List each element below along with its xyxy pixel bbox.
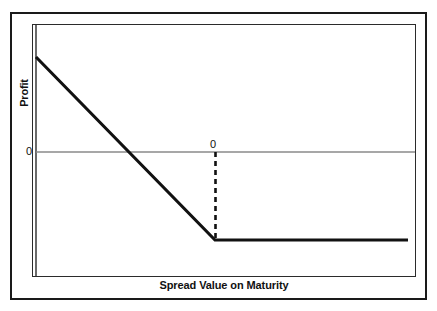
y-axis-title: Profit xyxy=(18,58,30,128)
chart-figure: Profit Spread Value on Maturity 0 0 xyxy=(0,0,437,311)
y-axis-zero-tick-label: 0 xyxy=(19,144,32,158)
x-axis-title: Spread Value on Maturity xyxy=(32,279,416,291)
plot-area-frame xyxy=(32,24,416,277)
x-axis-strike-zero-label: 0 xyxy=(206,138,220,151)
